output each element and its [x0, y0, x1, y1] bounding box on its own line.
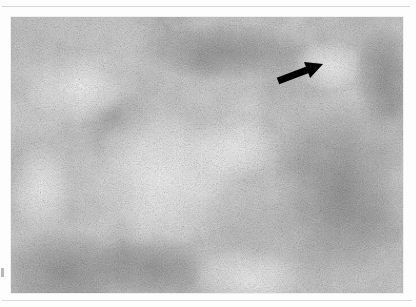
micrograph-canvas — [11, 17, 403, 293]
margin-tick-mark — [1, 268, 4, 277]
page-rule-bottom — [2, 300, 412, 301]
page-rule-top — [2, 6, 410, 7]
photomicrograph-figure — [11, 17, 403, 293]
print-tone-wash — [11, 17, 403, 293]
scanned-page — [0, 0, 416, 307]
